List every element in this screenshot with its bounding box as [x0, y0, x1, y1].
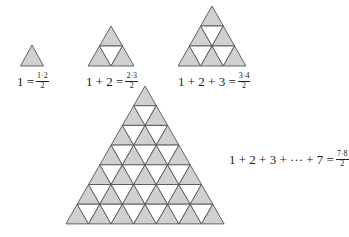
formula-lhs: 1 =: [17, 75, 34, 88]
triangle-n3: [178, 6, 246, 66]
fraction: 1·22: [36, 72, 49, 90]
formula-n3: 1 + 2 + 3 = 3·42: [178, 72, 250, 90]
formula-lhs: 1 + 2 + 3 + ··· + 7 =: [229, 153, 334, 166]
formula-n2: 1 + 2 = 2·32: [86, 72, 138, 90]
fraction: 3·42: [238, 72, 251, 90]
triangle-n2: [88, 26, 134, 66]
triangle-n1: [21, 45, 44, 66]
formula-n1: 1 = 1·22: [17, 72, 49, 90]
fraction: 7·82: [336, 150, 349, 168]
formula-n7: 1 + 2 + 3 + ··· + 7 = 7·82: [229, 150, 349, 168]
triangle-n7: [66, 86, 224, 224]
formula-lhs: 1 + 2 + 3 =: [178, 75, 236, 88]
fraction: 2·32: [125, 72, 138, 90]
formula-lhs: 1 + 2 =: [86, 75, 123, 88]
